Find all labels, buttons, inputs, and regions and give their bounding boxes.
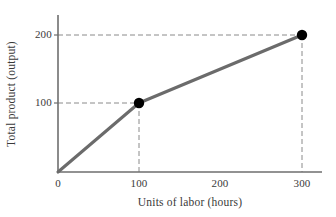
- data-point-marker-300[interactable]: [297, 30, 307, 40]
- data-point-marker-100[interactable]: [134, 98, 144, 108]
- x-axis-title: Units of labor (hours): [58, 196, 322, 208]
- y-axis-title-wrapper: Total product (output): [2, 28, 20, 160]
- x-tick-label-300: 300: [282, 178, 322, 189]
- y-axis-title: Total product (output): [5, 41, 17, 147]
- x-tick-label-100: 100: [119, 178, 159, 189]
- x-tick-label-200: 200: [200, 178, 240, 189]
- total-product-chart: 200 100 0 100 200 300 Total product (out…: [0, 0, 336, 217]
- x-tick-label-0: 0: [48, 178, 68, 189]
